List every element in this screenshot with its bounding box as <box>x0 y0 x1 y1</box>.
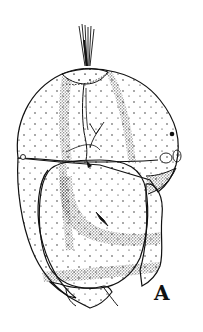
panel-label: A <box>154 283 170 303</box>
left-pore <box>21 155 26 160</box>
eyespot <box>170 132 175 137</box>
specimen-drawing <box>0 0 203 332</box>
apical-tuft <box>79 24 94 66</box>
